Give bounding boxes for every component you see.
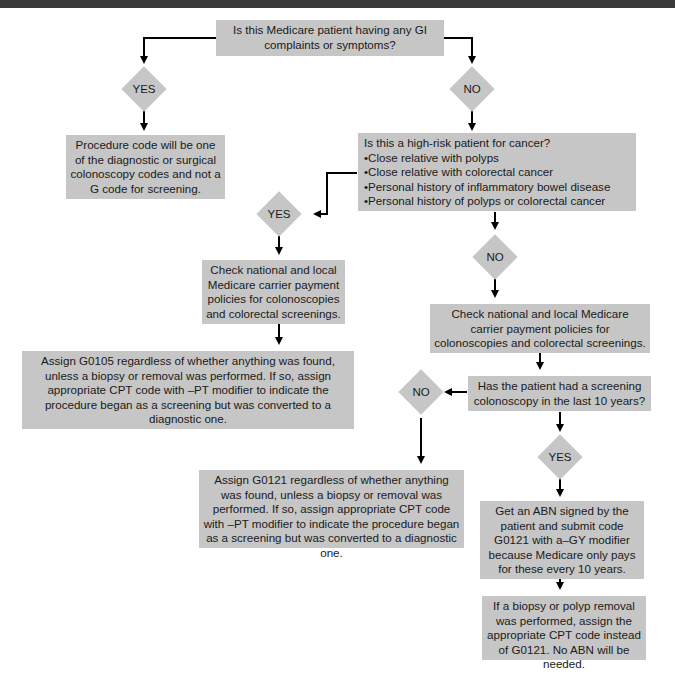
ten-year-yes-decision: YES (537, 434, 583, 480)
check-policies-left-text: Check national and local Medicare carrie… (206, 263, 341, 320)
diagnostic-code-text: Procedure code will be one of the diagno… (70, 138, 220, 195)
gi-question-node: Is this Medicare patient having any GI c… (216, 20, 444, 56)
ten-year-no-decision: NO (398, 369, 444, 415)
risk-factor-list: Close relative with polyps Close relativ… (364, 151, 632, 209)
abn-node: Get an ABN signed by the patient and sub… (480, 501, 644, 579)
assign-g0105-node: Assign G0105 regardless of whether anyth… (22, 351, 354, 429)
biopsy-text: If a biopsy or polyp removal was perform… (487, 599, 641, 670)
diagnostic-code-result-node: Procedure code will be one of the diagno… (66, 135, 225, 199)
risk-factor-item: Personal history of polyps or colorectal… (364, 194, 632, 209)
gi-yes-decision: YES (121, 66, 167, 112)
high-risk-question-node: Is this a high-risk patient for cancer? … (358, 133, 636, 211)
biopsy-node: If a biopsy or polyp removal was perform… (482, 596, 646, 660)
assign-g0121-text: Assign G0121 regardless of whether anyth… (204, 473, 460, 559)
assign-g0105-text: Assign G0105 regardless of whether anyth… (41, 354, 335, 425)
risk-factor-item: Close relative with polyps (364, 151, 632, 166)
check-policies-right-node: Check national and local Medicare carrie… (430, 304, 650, 353)
decision-label: NO (398, 369, 444, 415)
abn-text: Get an ABN signed by the patient and sub… (489, 504, 636, 575)
decision-label: NO (472, 234, 518, 280)
risk-factor-item: Personal history of inflammatory bowel d… (364, 180, 632, 195)
check-policies-left-node: Check national and local Medicare carrie… (202, 260, 345, 324)
ten-year-question-text: Has the patient had a screening colonosc… (474, 379, 645, 407)
decision-label: NO (449, 66, 495, 112)
assign-g0121-node: Assign G0121 regardless of whether anyth… (199, 470, 464, 548)
high-risk-no-decision: NO (472, 234, 518, 280)
decision-label: YES (256, 191, 302, 237)
gi-question-text: Is this Medicare patient having any GI c… (233, 23, 427, 51)
check-policies-right-text: Check national and local Medicare carrie… (434, 307, 645, 349)
decision-label: YES (121, 66, 167, 112)
high-risk-title: Is this a high-risk patient for cancer? (364, 136, 632, 151)
ten-year-question-node: Has the patient had a screening colonosc… (468, 376, 651, 411)
gi-no-decision: NO (449, 66, 495, 112)
risk-factor-item: Close relative with colorectal cancer (364, 165, 632, 180)
decision-label: YES (537, 434, 583, 480)
high-risk-yes-decision: YES (256, 191, 302, 237)
